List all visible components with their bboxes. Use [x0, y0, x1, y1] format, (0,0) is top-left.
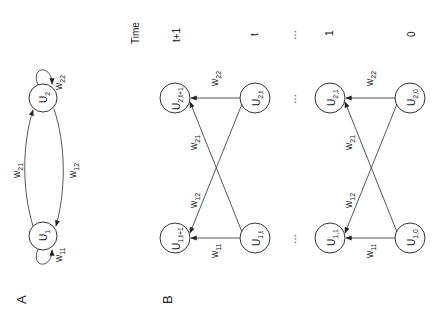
weight-upper-w21: w21: [188, 135, 201, 151]
time-label-1: 1: [324, 30, 335, 36]
weight-w12: w12: [67, 163, 80, 179]
time-label-0: 0: [406, 31, 417, 37]
weight-lower-w22: w22: [364, 71, 377, 87]
weight-lower-w21: w21: [343, 135, 356, 151]
node-u2-0: U2,0: [395, 83, 425, 113]
weight-lower-w11: w11: [364, 243, 377, 259]
panel-b: B Time t+1 t … 1 0 U2,t+1 U1,t+1 U2,t U1…: [130, 22, 425, 304]
node-u1-0: U1,0: [395, 223, 425, 253]
edge-w21: [25, 110, 33, 226]
node-u1-t-plus-1: U1,t+1: [160, 223, 190, 253]
time-header: Time: [130, 22, 141, 44]
weight-lower-w12: w12: [343, 193, 356, 209]
weight-w11: w11: [53, 247, 66, 263]
time-label-t: t: [249, 33, 260, 36]
node-u2-1: U2,1: [315, 83, 345, 113]
ellipsis-u1: …: [287, 234, 298, 244]
time-label-ellipsis: …: [287, 30, 298, 40]
node-u1-t: U1,t: [240, 223, 270, 253]
ellipsis-u2: …: [287, 94, 298, 104]
weight-w22: w22: [53, 75, 66, 91]
recurrent-network-diagram: A U1 w11 U2 w22 w21 w12 B Time t+1 t … 1: [0, 0, 435, 329]
self-loop-w22: [36, 70, 52, 85]
weight-w21: w21: [11, 163, 24, 179]
node-u2-t: U2,t: [240, 83, 270, 113]
weight-upper-w12: w12: [188, 193, 201, 209]
weight-upper-w22: w22: [209, 71, 222, 87]
time-label-t-plus-1: t+1: [171, 27, 182, 42]
self-loop-w11: [36, 249, 52, 264]
edge-w12: [54, 109, 63, 226]
node-u1: U1: [29, 222, 57, 250]
node-u2-t-plus-1: U2,t+1: [160, 83, 190, 113]
weight-upper-w11: w11: [209, 243, 222, 259]
panel-b-label: B: [160, 295, 175, 304]
panel-a: A U1 w11 U2 w22 w21 w12: [11, 70, 80, 304]
panel-a-label: A: [14, 295, 29, 304]
node-u1-1: U1,1: [315, 223, 345, 253]
